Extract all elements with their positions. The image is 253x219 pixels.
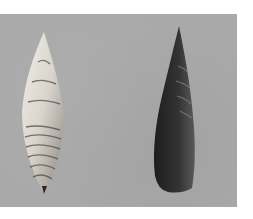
dark-obsidian-point: [152, 26, 198, 196]
light-flint-point: [20, 32, 66, 196]
image-description: Photograph of two stone projectile point…: [0, 14, 1, 15]
photograph: Photograph of two stone projectile point…: [0, 14, 237, 207]
